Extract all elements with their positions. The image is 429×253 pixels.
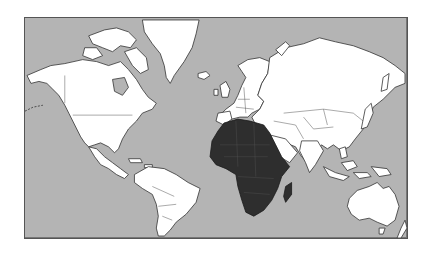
region-indonesia xyxy=(323,161,391,181)
region-british-isles xyxy=(214,81,230,97)
world-map-graphic xyxy=(25,18,407,238)
region-south-america xyxy=(134,167,200,236)
region-australia xyxy=(347,183,399,227)
region-arctic-islands-2 xyxy=(83,48,103,60)
region-india xyxy=(300,141,324,173)
region-central-america xyxy=(89,147,129,179)
date-line-dash xyxy=(25,105,43,111)
region-iceland xyxy=(198,72,210,80)
region-north-america xyxy=(27,60,156,153)
region-new-zealand xyxy=(397,220,407,238)
region-madagascar xyxy=(284,183,292,203)
region-greenland xyxy=(142,20,199,83)
world-map xyxy=(24,17,408,239)
